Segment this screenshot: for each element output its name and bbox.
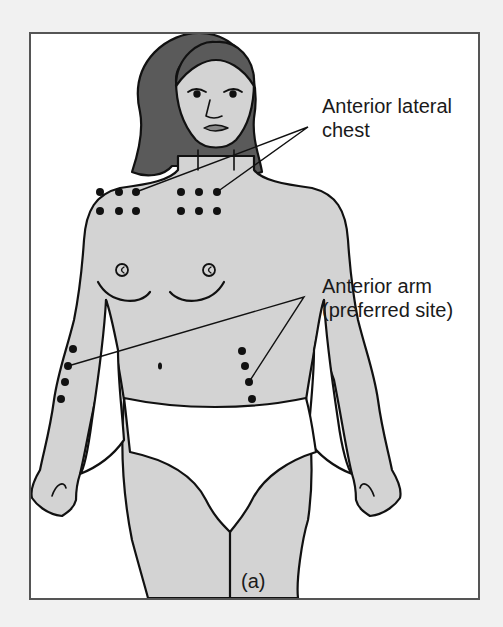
callout-line: chest	[322, 118, 452, 142]
callout-anterior-arm: Anterior arm (preferred site)	[322, 274, 453, 322]
callout-anterior-lateral-chest: Anterior lateral chest	[322, 94, 452, 142]
body-outline	[31, 156, 400, 598]
panel-label: (a)	[241, 570, 265, 593]
callout-line: Anterior arm	[322, 274, 453, 298]
callout-line: (preferred site)	[322, 298, 453, 322]
callout-line: Anterior lateral	[322, 94, 452, 118]
